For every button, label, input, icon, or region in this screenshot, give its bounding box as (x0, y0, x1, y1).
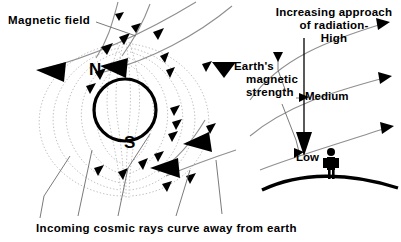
label-radiation-line2: of radiation- (271, 19, 397, 32)
label-south-pole: S (124, 133, 135, 152)
arrowhead-arc-low (380, 122, 394, 134)
earth-circle (94, 79, 156, 141)
arrowhead-large-left-1 (36, 62, 66, 82)
arrowhead-small-8 (160, 52, 169, 63)
arrowhead-large-lower-2 (183, 132, 212, 152)
label-strength-line1: Earth's (234, 60, 274, 72)
arrowhead-small-12 (168, 131, 178, 142)
figure-head (327, 148, 335, 156)
figure-arm-right (335, 158, 339, 168)
arrowhead-small-10 (170, 105, 180, 116)
arrowhead-small-17 (162, 181, 172, 192)
label-radiation-line3-high: High (271, 32, 397, 45)
arrowhead-large-lower-1 (150, 158, 180, 178)
arrowhead-small-19 (202, 61, 212, 72)
arrowhead-small-7 (86, 83, 96, 94)
field-direction-arrowheads (86, 12, 216, 192)
human-figure-silhouette (323, 148, 339, 179)
arrowhead-small-16 (94, 165, 104, 176)
cosmic-ray-arrowheads-large (36, 58, 212, 178)
figure-torso (327, 157, 335, 170)
field-line-right-4 (128, 58, 168, 174)
label-increasing-radiation: Increasing approach of radiation- High (271, 6, 397, 45)
label-low: Low (296, 151, 319, 164)
figure-arm-left (323, 158, 327, 168)
pointer-magnetic-field (96, 22, 136, 36)
field-line-axis-right-2 (129, 42, 140, 200)
arrowhead-small-3 (153, 28, 164, 40)
arrowhead-small-13 (154, 151, 164, 162)
arrowhead-small-5 (115, 12, 124, 21)
arrowhead-arc-medium (378, 72, 392, 84)
arrowhead-small-14 (138, 158, 148, 170)
caption-pointer-2 (78, 150, 92, 216)
marker-triangle-earth-strength (212, 62, 236, 78)
caption-incoming-cosmic-rays: Incoming cosmic rays curve away from ear… (36, 222, 297, 235)
figure-leg-left (328, 170, 331, 179)
caption-pointer-5 (216, 160, 222, 214)
label-earths-magnetic-strength: Earth's magnetic strength (234, 60, 306, 99)
label-north-pole: N (89, 60, 101, 79)
label-magnetic-field: Magnetic field (8, 14, 90, 27)
arrowhead-small-11 (172, 119, 182, 130)
label-medium: Medium (305, 90, 348, 103)
figure-leg-right (332, 170, 335, 179)
label-strength-line2: magnetic (234, 73, 306, 86)
cosmic-ray-path-1 (40, 2, 196, 70)
label-radiation-line1: Increasing approach (276, 6, 392, 18)
cosmic-ray-magnetic-field-diagram: Magnetic field Increasing approach of ra… (0, 0, 401, 242)
label-strength-line3: strength (234, 86, 306, 99)
strength-pointer-low (282, 104, 300, 156)
